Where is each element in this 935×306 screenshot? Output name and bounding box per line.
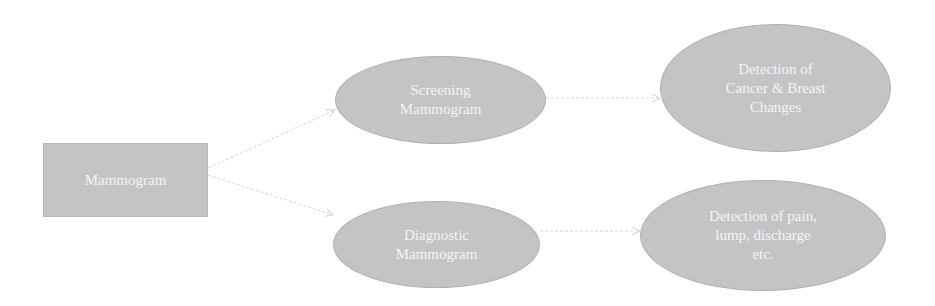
edge-root-to-diagnostic (208, 175, 333, 215)
node-diagnostic-mammogram-label: Diagnostic Mammogram (396, 226, 478, 264)
node-diagnostic-mammogram: Diagnostic Mammogram (333, 201, 540, 288)
node-mammogram-label: Mammogram (85, 171, 167, 190)
node-detection-cancer: Detection of Cancer & Breast Changes (660, 24, 891, 152)
node-detection-pain: Detection of pain, lump, discharge etc. (640, 180, 886, 291)
node-detection-cancer-label: Detection of Cancer & Breast Changes (726, 60, 826, 117)
node-screening-mammogram-label: Screening Mammogram (400, 81, 482, 119)
node-screening-mammogram: Screening Mammogram (335, 56, 546, 144)
edge-root-to-screening (208, 110, 335, 168)
node-mammogram: Mammogram (43, 143, 208, 217)
node-detection-pain-label: Detection of pain, lump, discharge etc. (709, 207, 817, 264)
